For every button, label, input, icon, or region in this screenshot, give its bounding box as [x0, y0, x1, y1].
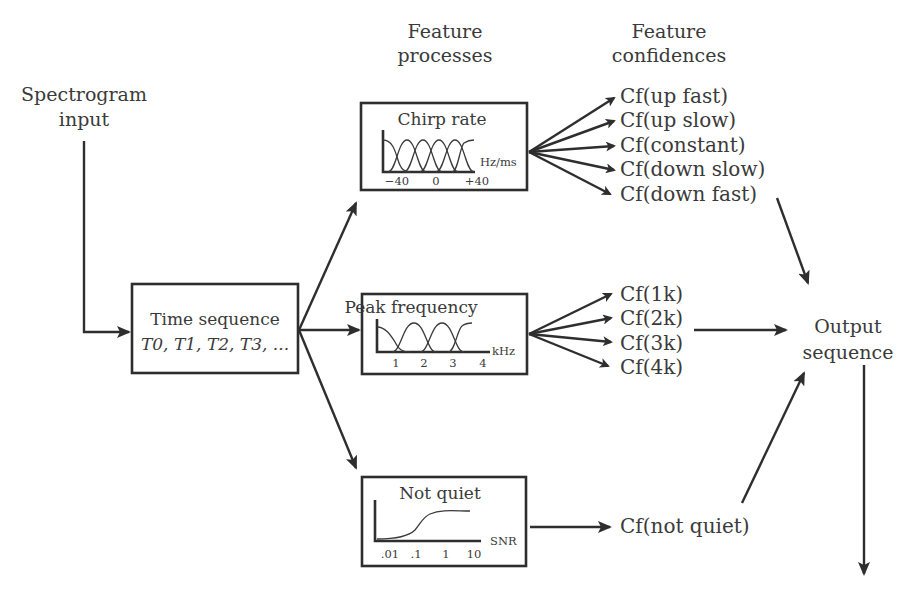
chirp-rate-box: Chirp rate Hz/ms −40 0 +40 [361, 103, 527, 190]
peak-frequency-title: Peak frequency [344, 297, 477, 317]
peak-confidences: Cf(1k) Cf(2k) Cf(3k) Cf(4k) [620, 282, 683, 379]
feature-confidences-header: Feature confidences [612, 20, 726, 66]
output-sequence-label: Output sequence [803, 315, 894, 363]
time-sequence-box: Time sequence T0, T1, T2, T3, ... [132, 284, 298, 373]
cf-down-fast: Cf(down fast) [620, 182, 757, 206]
cf-up-slow: Cf(up slow) [620, 108, 736, 132]
not-quiet-unit: SNR [490, 534, 517, 548]
snr-tick-10: 10 [467, 547, 482, 561]
snr-tick-001: .01 [381, 547, 399, 561]
notquiet-to-output-arrow [742, 373, 804, 503]
peak-arrow-2 [529, 318, 611, 334]
cf-up-fast: Cf(up fast) [620, 84, 728, 108]
chirp-rate-title: Chirp rate [398, 109, 487, 129]
chirp-rate-unit: Hz/ms [480, 155, 517, 169]
not-quiet-box: Not quiet SNR .01 .1 1 10 [362, 477, 526, 566]
peak-tick-3: 3 [449, 356, 456, 370]
chirp-tick-0: 0 [432, 174, 439, 188]
time-sequence-subtitle: T0, T1, T2, T3, ... [141, 334, 289, 354]
cf-2k: Cf(2k) [620, 306, 683, 330]
snr-tick-1: 1 [442, 547, 449, 561]
peak-tick-2: 2 [420, 356, 427, 370]
input-to-time-arrow [84, 141, 129, 332]
confidences-header-line2: confidences [612, 44, 726, 66]
chirp-tick-pos40: +40 [465, 174, 489, 188]
peak-tick-1: 1 [392, 356, 399, 370]
output-label-line1: Output [814, 315, 882, 337]
chirp-confidences: Cf(up fast) Cf(up slow) Cf(constant) Cf(… [620, 84, 765, 206]
feature-processes-header: Feature processes [397, 20, 492, 66]
peak-tick-4: 4 [479, 356, 486, 370]
cf-constant: Cf(constant) [620, 133, 746, 157]
output-label-line2: sequence [803, 341, 894, 363]
cf-1k: Cf(1k) [620, 282, 683, 306]
spectrogram-input-label: Spectrogram input [21, 83, 147, 130]
cf-not-quiet: Cf(not quiet) [620, 514, 750, 538]
time-sequence-title: Time sequence [150, 309, 280, 329]
chirp-arrow-5 [529, 152, 610, 194]
confidences-header-line1: Feature [632, 20, 707, 42]
snr-tick-01: .1 [411, 547, 422, 561]
cf-down-slow: Cf(down slow) [620, 157, 765, 181]
peak-frequency-box: Peak frequency kHz 1 2 3 4 [344, 294, 527, 374]
cf-4k: Cf(4k) [620, 355, 683, 379]
processes-header-line1: Feature [408, 20, 483, 42]
input-label-line2: input [59, 108, 110, 130]
peak-frequency-unit: kHz [492, 344, 515, 358]
processes-header-line2: processes [397, 44, 492, 66]
cf-3k: Cf(3k) [620, 331, 683, 355]
input-label-line1: Spectrogram [21, 83, 147, 105]
peak-arrow-1 [529, 294, 611, 334]
feature-pipeline-diagram: Spectrogram input Feature processes Feat… [0, 0, 913, 595]
fork-arrow-notquiet [299, 330, 356, 468]
chirp-to-output-arrow [777, 198, 808, 283]
chirp-tick-neg40: −40 [385, 174, 409, 188]
chirp-arrow-4 [529, 152, 614, 170]
not-quiet-title: Not quiet [399, 483, 481, 503]
